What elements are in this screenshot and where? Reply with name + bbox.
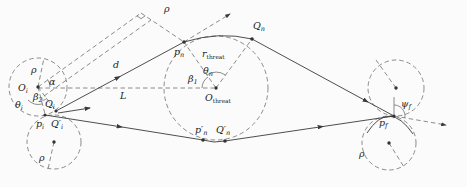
initial-direction-arrow [58, 108, 90, 113]
label-beta-1: β1 [187, 73, 198, 86]
label-L: L [119, 90, 126, 101]
radius-final-upper [376, 60, 396, 88]
right-angle-mark [137, 16, 145, 19]
offset-line-parallel [44, 20, 151, 96]
radius-initial-lower [48, 142, 54, 169]
point-o-i [36, 85, 39, 88]
label-beta-2: β2 [32, 91, 43, 104]
path-d-segment-arrow [56, 77, 120, 112]
point-initial-lower-center [52, 140, 55, 143]
label-q-i-prime: Q′i [51, 118, 63, 131]
path-qn-to-pf-arrow [252, 39, 368, 102]
label-rho-final-lower: ρ [358, 148, 365, 159]
label-o-i: Oi [18, 82, 28, 95]
label-p-f: pf [379, 117, 389, 130]
diagram-canvas: ρ Qn pn rthreat d ρ Oi α β2 θi Qi β1 θn … [0, 0, 467, 187]
label-alpha: α [49, 76, 56, 87]
final-heading-arrow [394, 116, 446, 125]
point-final-lower-center [387, 141, 390, 144]
label-theta-i: θi [15, 99, 23, 112]
label-q-n-prime: Q′n [216, 124, 230, 137]
point-p-n-prime [201, 138, 205, 142]
point-q-n [250, 37, 254, 41]
path-qn-prime-to-pf-arrow [225, 127, 323, 142]
label-p-n: pn [174, 46, 184, 59]
point-p-i [43, 113, 46, 116]
point-final-upper-center [394, 86, 397, 89]
label-rho-offset: ρ [163, 3, 170, 14]
point-o-threat [214, 86, 217, 89]
label-p-n-prime: p′n [195, 124, 207, 137]
point-p-n [182, 40, 186, 44]
label-r-threat: rthreat [202, 48, 225, 60]
tangent-extension-arrow [184, 14, 230, 42]
label-o-threat: Othreat [205, 92, 232, 104]
point-p-f [392, 114, 395, 117]
path-arc-over-threat [184, 36, 252, 42]
label-rho-init-upper: ρ [30, 64, 37, 75]
point-q-n-prime [223, 139, 227, 143]
label-p-i: pi [36, 118, 44, 131]
rho-offset-segment [141, 13, 184, 42]
label-q-n: Qn [253, 20, 265, 33]
label-rho-init-lower: ρ [38, 152, 45, 163]
label-q-i: Qi [45, 98, 55, 111]
radius-initial-upper [38, 58, 44, 87]
path-qn-to-pf [368, 102, 394, 116]
geometry-diagram: ρ Qn pn rthreat d ρ Oi α β2 θi Qi β1 θn … [0, 0, 467, 187]
label-d: d [113, 59, 119, 70]
radius-final-lower [389, 143, 404, 167]
beta1-angle-arc [202, 77, 208, 88]
label-theta-n: θn [203, 65, 213, 78]
